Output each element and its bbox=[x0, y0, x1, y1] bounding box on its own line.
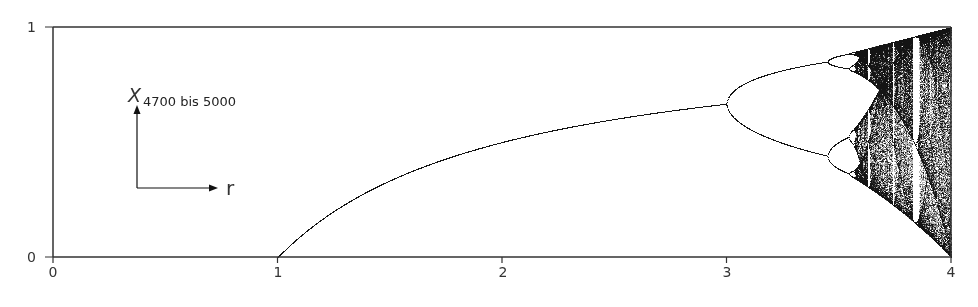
bifurcation-plot bbox=[0, 0, 978, 307]
x-tick-0: 0 bbox=[49, 265, 58, 279]
x-tick-1: 1 bbox=[274, 265, 283, 279]
x-tick-4: 4 bbox=[947, 265, 956, 279]
legend-y-subscript: 4700 bis 5000 bbox=[143, 94, 236, 109]
x-tick-3: 3 bbox=[723, 265, 732, 279]
y-tick-1: 1 bbox=[27, 20, 36, 34]
x-tick-2: 2 bbox=[499, 265, 508, 279]
legend-x-symbol: r bbox=[226, 176, 234, 200]
legend-y-symbol: X bbox=[128, 84, 141, 106]
y-tick-0: 0 bbox=[27, 250, 36, 264]
